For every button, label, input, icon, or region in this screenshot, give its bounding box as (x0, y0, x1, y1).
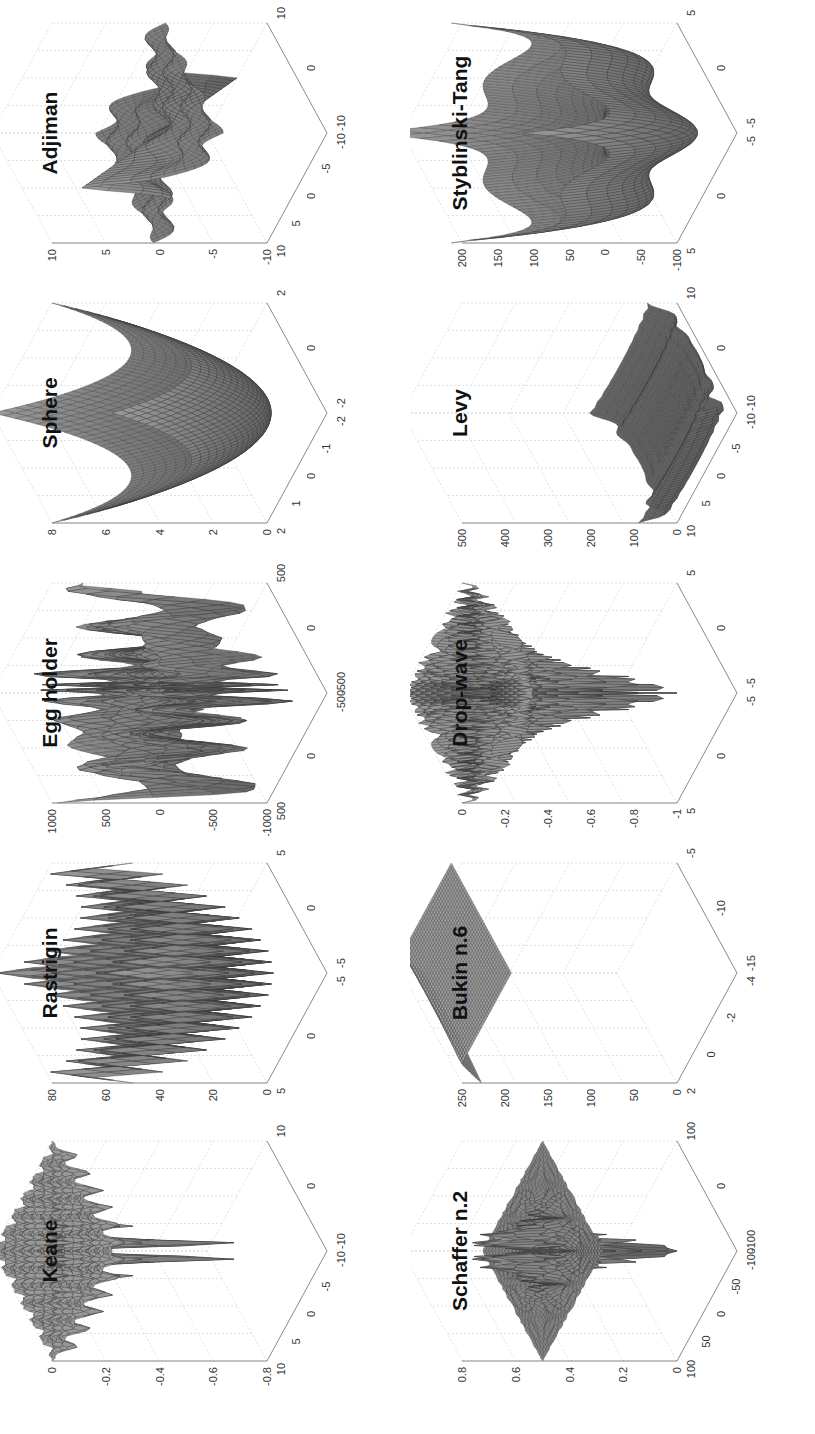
tick-label: 100 (585, 1089, 597, 1107)
tick-label: 150 (492, 249, 504, 267)
tick-label: -500 (207, 809, 219, 831)
tick-label: 0 (154, 249, 166, 255)
plot-drop-wave: 50-5-5050-0.2-0.4-0.6-0.8-1 Drop-wave (410, 550, 810, 836)
tick-label: 0 (305, 193, 317, 199)
tick-label: 0 (261, 529, 273, 535)
tick-label: -2 (335, 416, 347, 426)
tick-label: 10 (275, 7, 287, 19)
tick-label: 0 (715, 193, 727, 199)
tick-label: -2 (725, 1013, 737, 1023)
tick-label: -100 (745, 1230, 757, 1252)
plot-title: Egg holder (38, 550, 62, 836)
tick-label: 100 (528, 249, 540, 267)
plot-title: Bukin n.6 (448, 830, 472, 1116)
plot-title: Drop-wave (448, 550, 472, 836)
tick-label: -5 (745, 118, 757, 128)
tick-label: 4 (154, 529, 166, 535)
tick-label: 10 (275, 1125, 287, 1137)
tick-label: 200 (585, 529, 597, 547)
tick-label: 400 (499, 529, 511, 547)
tick-label: 10 (685, 525, 697, 537)
tick-label: 0.6 (510, 1367, 522, 1382)
tick-label: 0 (305, 345, 317, 351)
plot-title: Schaffer n.2 (448, 1108, 472, 1394)
tick-label: -0.4 (154, 1367, 166, 1386)
tick-label: 6 (100, 529, 112, 535)
tick-label: 500 (275, 802, 287, 820)
tick-label: 10 (685, 287, 697, 299)
tick-label: 0 (715, 345, 727, 351)
plot-levy: 1050-5-10-100105004003002001000 Levy (410, 270, 810, 556)
tick-label: -10 (335, 133, 347, 149)
tick-label: -10 (745, 413, 757, 429)
tick-label: -5 (320, 164, 332, 174)
tick-label: 50 (628, 1089, 640, 1101)
tick-label: -5 (745, 136, 757, 146)
tick-label: 10 (275, 1363, 287, 1375)
tick-label: -5 (320, 1282, 332, 1292)
tick-label: 0 (154, 809, 166, 815)
tick-label: 500 (100, 809, 112, 827)
tick-label: 0 (305, 1311, 317, 1317)
tick-label: -10 (745, 395, 757, 411)
plot-title: Styblinski-Tang (448, 0, 472, 276)
tick-label: 5 (685, 570, 697, 576)
tick-label: 0 (671, 1089, 683, 1095)
tick-label: 0 (715, 1183, 727, 1189)
tick-label: 0.2 (617, 1367, 629, 1382)
tick-label: 5 (290, 1338, 302, 1344)
plot-adjiman: 1050-5-10-100101050-5-10 Adjiman (0, 0, 400, 276)
tick-label: -50 (730, 1279, 742, 1295)
tick-label: -0.6 (585, 809, 597, 828)
tick-label: 20 (207, 1089, 219, 1101)
plot-sphere: 210-1-2-20286420 Sphere (0, 270, 400, 556)
plot-title: Rastrigin (38, 830, 62, 1116)
tick-label: -500 (335, 672, 347, 694)
tick-label: 5 (700, 500, 712, 506)
tick-label: -5 (335, 958, 347, 968)
tick-label: -10 (335, 1233, 347, 1249)
tick-label: -5 (745, 696, 757, 706)
tick-label: -1 (320, 444, 332, 454)
tick-label: 0 (261, 1089, 273, 1095)
plot-keane: 1050-5-10-100100-0.2-0.4-0.6-0.8 Keane (0, 1108, 400, 1394)
tick-label: -0.8 (628, 809, 640, 828)
tick-label: 0 (305, 625, 317, 631)
tick-label: -50 (635, 249, 647, 265)
tick-label: 0 (305, 473, 317, 479)
tick-label: -10 (715, 900, 727, 916)
tick-label: -0.6 (207, 1367, 219, 1386)
tick-label: -4 (745, 976, 757, 986)
tick-label: 5 (290, 220, 302, 226)
tick-label: -5 (685, 848, 697, 858)
tick-label: -10 (335, 1251, 347, 1267)
plot-egg-holder: 5000-500-500050010005000-500-1000 Egg ho… (0, 550, 400, 836)
tick-label: 50 (700, 1335, 712, 1347)
plot-styblinski-tang: 50-5-505200150100500-50-100 Styblinski-T… (410, 0, 810, 276)
tick-label: 0 (715, 753, 727, 759)
tick-label: 0 (671, 1367, 683, 1373)
tick-label: 2 (275, 528, 287, 534)
tick-label: 0 (599, 249, 611, 255)
tick-label: 2 (685, 1088, 697, 1094)
tick-label: 2 (207, 529, 219, 535)
tick-label: 0 (305, 905, 317, 911)
tick-label: 0 (715, 473, 727, 479)
tick-label: 300 (542, 529, 554, 547)
tick-label: 0 (671, 529, 683, 535)
tick-label: 0 (715, 625, 727, 631)
tick-label: 10 (275, 245, 287, 257)
plot-schaffer-n2: 100500-50-100-10001000.80.60.40.20 Schaf… (410, 1108, 810, 1394)
plot-title: Sphere (38, 270, 62, 556)
plot-title: Levy (448, 270, 472, 556)
tick-label: 0 (715, 1311, 727, 1317)
tick-label: -0.2 (100, 1367, 112, 1386)
plot-rastrigin: 50-5-505806040200 Rastrigin (0, 830, 400, 1116)
tick-label: 5 (685, 10, 697, 16)
tick-label: 0 (715, 65, 727, 71)
tick-label: 1 (290, 500, 302, 506)
tick-label: -15 (745, 955, 757, 971)
tick-label: 50 (564, 249, 576, 261)
tick-label: 0.4 (564, 1367, 576, 1382)
tick-label: -5 (730, 444, 742, 454)
